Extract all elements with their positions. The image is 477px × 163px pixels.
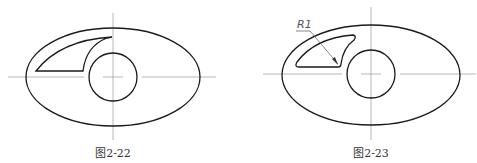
caption-figure-2-22: 图2-22 xyxy=(95,144,131,160)
figure-2-22 xyxy=(8,13,216,140)
crescent-cutout-rounded xyxy=(296,35,355,67)
drawing-canvas: R1 xyxy=(0,0,477,163)
dimension-leader-line xyxy=(296,31,338,64)
figure-2-23: R1 xyxy=(263,7,476,140)
caption-figure-2-23: 图2-23 xyxy=(353,144,389,160)
crescent-cutout xyxy=(36,37,112,71)
dimension-label-r1: R1 xyxy=(297,18,312,31)
